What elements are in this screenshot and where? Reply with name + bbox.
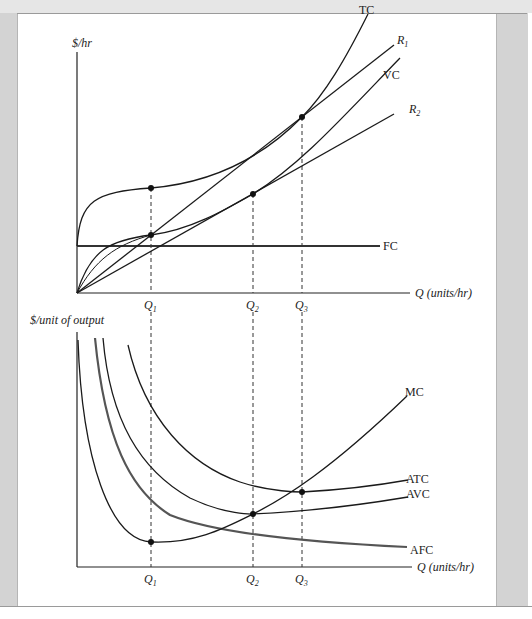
tc-label: TC [359,3,374,17]
mc-min-point-q1 [148,539,154,545]
mc-atc-point-q3 [299,489,305,495]
bottom-q1-label: Q1 [144,572,157,588]
atc-label: ATC [406,472,429,486]
avc-label: AVC [406,487,430,501]
r1-revenue-line [77,45,394,293]
vc-label: VC [383,68,400,82]
r1-label: R1 [396,33,408,49]
bottom-x-axis-label: Q (units/hr) [417,560,474,574]
vc-r1-point-q1 [148,232,154,238]
bottom-panel: $/unit of output Q (units/hr) MC ATC AVC… [30,312,474,588]
mc-curve [78,340,407,542]
atc-curve [128,345,408,492]
vc-r2-point-q2 [250,191,256,197]
tc-r1-point-q3 [299,114,305,120]
mc-avc-point-q2 [250,511,256,517]
mc-label: MC [405,385,424,399]
top-q3-label: Q3 [295,298,308,314]
vc-curve [77,58,400,293]
top-panel: $/hr Q (units/hr) TC R1 VC R2 FC Q1 Q2 Q… [72,3,472,314]
fc-label: FC [383,239,398,253]
bottom-y-axis-label: $/unit of output [30,313,105,327]
r2-label: R2 [408,102,420,118]
bottom-q3-label: Q3 [295,572,308,588]
top-q1-label: Q1 [144,298,157,314]
bottom-q2-label: Q2 [246,572,259,588]
afc-label: AFC [410,543,433,557]
top-y-axis-label: $/hr [72,36,92,50]
top-q2-label: Q2 [246,298,259,314]
cost-curves-diagram: $/hr Q (units/hr) TC R1 VC R2 FC Q1 Q2 Q… [0,0,532,619]
top-x-axis-label: Q (units/hr) [415,286,472,300]
avc-curve [103,338,408,514]
tc-point-q1 [148,185,154,191]
